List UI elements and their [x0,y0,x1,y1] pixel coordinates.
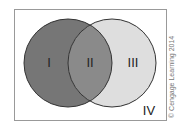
region-label-iv: IV [143,103,156,118]
venn-diagram: I II III IV [0,0,181,127]
region-label-ii: II [86,55,93,70]
copyright-credit: © Cengage Learning 2014 [168,36,175,118]
region-label-iii: III [128,55,139,70]
region-label-i: I [47,55,51,70]
